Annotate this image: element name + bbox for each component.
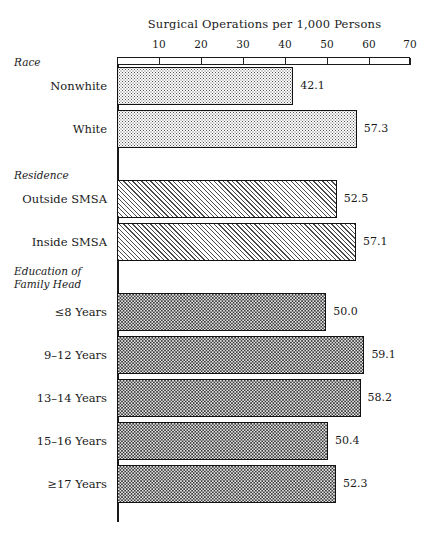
x-axis-tick xyxy=(410,58,411,65)
x-axis xyxy=(117,57,410,65)
bar xyxy=(117,67,293,105)
category-label: Inside SMSA xyxy=(13,235,117,249)
bar xyxy=(117,465,336,503)
x-axis-tick-label: 30 xyxy=(230,38,256,50)
x-axis-tick-label: 40 xyxy=(272,38,298,50)
group-header: Residence xyxy=(14,169,69,182)
x-axis-tick xyxy=(369,58,370,65)
x-axis-tick-label: 50 xyxy=(314,38,340,50)
bar-value-label: 50.0 xyxy=(333,305,358,318)
chart-title: Surgical Operations per 1,000 Persons xyxy=(118,17,411,31)
x-axis-tick-label: 20 xyxy=(188,38,214,50)
x-axis-tick xyxy=(243,58,244,65)
category-label: Outside SMSA xyxy=(13,192,117,206)
bar-value-label: 57.1 xyxy=(363,235,388,248)
group-header: Race xyxy=(14,56,41,69)
x-axis-tick xyxy=(159,58,160,65)
bar-value-label: 57.3 xyxy=(364,122,389,135)
bar-value-label: 52.5 xyxy=(344,192,369,205)
category-label: Nonwhite xyxy=(13,79,117,93)
category-label: White xyxy=(13,122,117,136)
x-axis-tick-label: 60 xyxy=(356,38,382,50)
bar xyxy=(117,110,357,148)
chart-figure: Surgical Operations per 1,000 Persons 10… xyxy=(0,0,431,540)
bar-value-label: 59.1 xyxy=(371,348,396,361)
x-axis-tick xyxy=(327,58,328,65)
x-axis-tick-label: 70 xyxy=(397,38,423,50)
category-label: 9–12 Years xyxy=(13,348,117,362)
category-label: 13–14 Years xyxy=(13,391,117,405)
bar-value-label: 52.3 xyxy=(343,477,368,490)
x-axis-tick xyxy=(201,58,202,65)
group-header: Education of Family Head xyxy=(14,265,82,291)
x-axis-tick-labels: 10203040506070 xyxy=(0,38,431,54)
category-label: ≤8 Years xyxy=(13,305,117,319)
bar xyxy=(117,180,337,218)
bar xyxy=(117,422,328,460)
x-axis-tick xyxy=(285,58,286,65)
bar xyxy=(117,379,361,417)
category-label: ≥17 Years xyxy=(13,477,117,491)
bar-value-label: 42.1 xyxy=(300,79,325,92)
bar xyxy=(117,293,326,331)
bar-value-label: 58.2 xyxy=(368,391,393,404)
bar xyxy=(117,336,364,374)
bar xyxy=(117,223,356,261)
bar-value-label: 50.4 xyxy=(335,434,360,447)
category-label: 15–16 Years xyxy=(13,434,117,448)
x-axis-tick-label: 10 xyxy=(146,38,172,50)
